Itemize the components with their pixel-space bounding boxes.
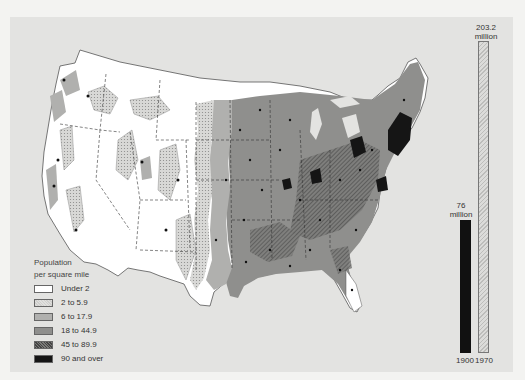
legend-item-2-5: 2 to 5.9 xyxy=(34,296,103,309)
bar-1970-value-number: 203.2 xyxy=(466,23,506,32)
swatch-6-17 xyxy=(34,313,53,321)
bar-1970-value-unit: million xyxy=(466,32,506,41)
legend-item-45-89: 45 to 89.9 xyxy=(34,338,103,351)
swatch-2-5 xyxy=(34,299,53,307)
legend-item-18-44: 18 to 44.9 xyxy=(34,324,103,337)
legend-item-6-17: 6 to 17.9 xyxy=(34,310,103,323)
legend-label: 90 and over xyxy=(61,354,103,363)
legend-label: Under 2 xyxy=(61,284,89,293)
map-legend: Population per square mile Under 2 2 to … xyxy=(34,257,103,365)
legend-label: 2 to 5.9 xyxy=(61,298,88,307)
bar-1900-value: 76 million xyxy=(446,201,476,219)
swatch-90-plus xyxy=(34,355,53,363)
bar-1900-value-unit: million xyxy=(446,210,476,219)
bar-1970-year: 1970 xyxy=(470,356,498,365)
bar-1900-value-number: 76 xyxy=(446,201,476,210)
swatch-18-44 xyxy=(34,327,53,335)
legend-label: 18 to 44.9 xyxy=(61,326,97,335)
bar-1900 xyxy=(460,220,471,353)
legend-item-under-2: Under 2 xyxy=(34,282,103,295)
legend-title-line2: per square mile xyxy=(34,269,103,281)
legend-item-90-plus: 90 and over xyxy=(34,352,103,365)
legend-title-line1: Population xyxy=(34,257,103,269)
swatch-45-89 xyxy=(34,341,53,349)
swatch-under-2 xyxy=(34,285,53,293)
legend-label: 6 to 17.9 xyxy=(61,312,92,321)
bar-1970-value: 203.2 million xyxy=(466,23,506,41)
legend-label: 45 to 89.9 xyxy=(61,340,97,349)
bar-1970 xyxy=(478,41,489,353)
